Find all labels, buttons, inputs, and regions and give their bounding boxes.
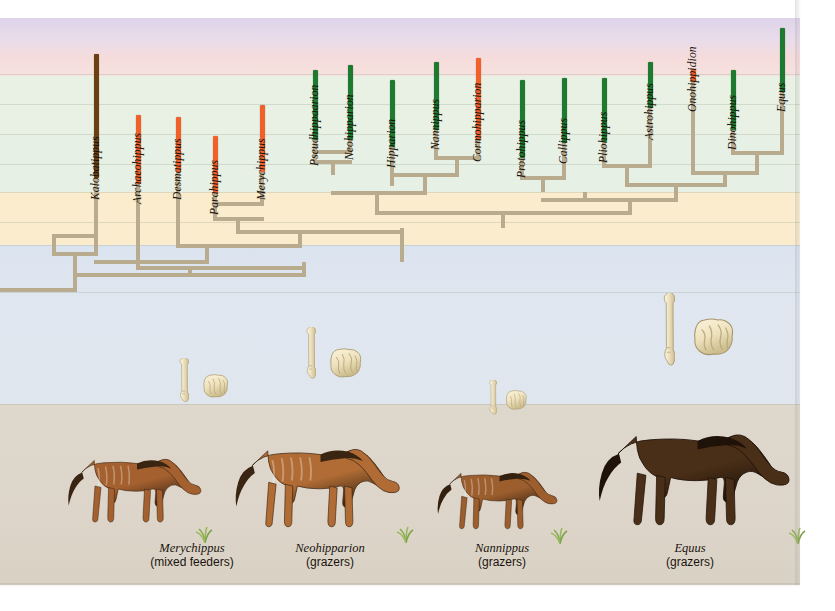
caption-diet: (grazers) (240, 555, 420, 569)
caption-equus: Equus(grazers) (600, 541, 780, 569)
caption-neohipparion: Neohipparion(grazers) (240, 541, 420, 569)
caption-species: Equus (600, 541, 780, 555)
page-bottom-edge-shadow (0, 583, 800, 587)
page-right-edge-shadow (795, 0, 801, 585)
caption-diet: (grazers) (412, 555, 592, 569)
figure-root: KalobatippusArchaeohippusDesmatippusPara… (0, 0, 835, 611)
caption-species: Nannippus (412, 541, 592, 555)
caption-nannippus: Nannippus(grazers) (412, 541, 592, 569)
caption-species: Neohipparion (240, 541, 420, 555)
figure-captions: Merychippus(mixed feeders)Neohipparion(g… (0, 0, 800, 585)
caption-diet: (grazers) (600, 555, 780, 569)
